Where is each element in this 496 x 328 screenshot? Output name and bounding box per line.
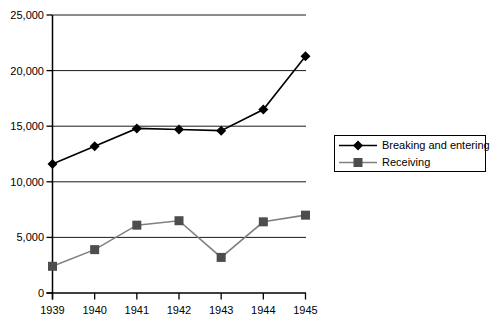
square-marker-icon — [338, 156, 378, 169]
y-tick-label-25000: 25,000 — [10, 9, 44, 21]
point-breaking-and-entering-1940 — [90, 141, 100, 151]
legend-label-receiving: Receiving — [382, 156, 430, 169]
legend-item-receiving: Receiving — [338, 155, 485, 170]
point-breaking-and-entering-1939 — [48, 159, 58, 169]
line-chart: 05,00010,00015,00020,00025,0001939194019… — [0, 0, 496, 328]
x-tick-label-1940: 1940 — [82, 304, 106, 316]
legend-item-breaking-and-entering: Breaking and entering — [338, 138, 485, 153]
point-receiving-1942 — [175, 216, 184, 225]
legend: Breaking and entering Receiving — [334, 135, 486, 172]
point-receiving-1939 — [48, 262, 57, 271]
y-tick-label-20000: 20,000 — [10, 65, 44, 77]
point-breaking-and-entering-1943 — [216, 126, 226, 136]
y-tick-label-15000: 15,000 — [10, 120, 44, 132]
point-receiving-1945 — [301, 211, 310, 220]
y-tick-label-5000: 5,000 — [16, 231, 44, 243]
diamond-marker-icon — [338, 139, 378, 152]
point-receiving-1944 — [259, 217, 268, 226]
y-tick-label-10000: 10,000 — [10, 176, 44, 188]
x-tick-label-1941: 1941 — [125, 304, 149, 316]
point-receiving-1943 — [217, 253, 226, 262]
point-breaking-and-entering-1941 — [132, 123, 142, 133]
x-tick-label-1943: 1943 — [209, 304, 233, 316]
x-tick-label-1945: 1945 — [293, 304, 317, 316]
legend-label-breaking-and-entering: Breaking and entering — [382, 139, 490, 152]
x-tick-label-1942: 1942 — [167, 304, 191, 316]
x-tick-label-1944: 1944 — [251, 304, 275, 316]
point-receiving-1941 — [132, 221, 141, 230]
point-receiving-1940 — [90, 245, 99, 254]
y-tick-label-0: 0 — [38, 287, 44, 299]
x-tick-label-1939: 1939 — [40, 304, 64, 316]
